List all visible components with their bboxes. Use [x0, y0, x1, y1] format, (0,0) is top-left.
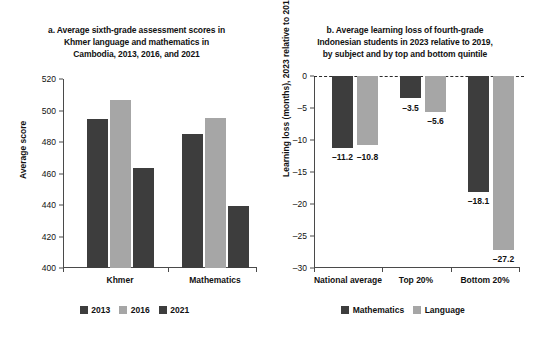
panel-b-ytick-0: 0	[268, 71, 314, 81]
panel-b-ytick-neg5: –5	[268, 103, 314, 113]
legend-item-2021[interactable]: 2021	[159, 305, 189, 315]
panel-b-x-axis-line	[314, 267, 520, 268]
bar-bottom20-mathematics[interactable]	[468, 76, 489, 192]
panel-a-xlabel-mathematics: Mathematics	[189, 275, 241, 285]
panel-a-title-line-1: a. Average sixth-grade assessment scores…	[12, 24, 261, 36]
bar-bottom20-language[interactable]	[493, 76, 514, 250]
panel-a-xtick-mark-mid	[168, 268, 169, 272]
panel-b-xtick-mark-3	[451, 268, 452, 272]
bar-value-bottom20-mathematics: –18.1	[468, 196, 489, 206]
legend-label-2013: 2013	[91, 305, 110, 315]
legend-item-2016[interactable]: 2016	[119, 305, 149, 315]
panel-b-legend: Mathematics Language	[269, 305, 537, 315]
bar-value-national-average-language: –10.8	[357, 152, 378, 162]
bar-khmer-2013[interactable]	[87, 119, 108, 268]
panel-b-y-axis-line	[314, 76, 315, 268]
panel-a-ytick-520: 520	[17, 74, 63, 84]
panel-b-ytick-neg15: –15	[268, 167, 314, 177]
bar-khmer-2021[interactable]	[133, 168, 154, 268]
legend-item-language[interactable]: Language	[413, 305, 465, 315]
panel-a-xlabel-khmer: Khmer	[107, 275, 134, 285]
bar-mathematics-2021[interactable]	[228, 206, 249, 268]
panel-b-title-line-3: by subject and by top and bottom quintil…	[281, 48, 529, 60]
bar-mathematics-2013[interactable]	[182, 134, 203, 268]
figure-container: a. Average sixth-grade assessment scores…	[0, 0, 537, 337]
bar-top20-language[interactable]	[425, 76, 446, 112]
panel-a-ytick-400: 400	[17, 263, 63, 273]
legend-label-language: Language	[425, 305, 465, 315]
panel-a-ytick-500: 500	[17, 106, 63, 116]
panel-b-indonesia-learning-loss: b. Average learning loss of fourth-grade…	[269, 0, 537, 337]
bar-value-top20-mathematics: –3.5	[402, 103, 419, 113]
panel-b-y-axis-title: Learning loss (months), 2023 relative to…	[281, 0, 291, 177]
panel-b-plot-area: 0 –5 –10 –15 –20 –25 –30 –11.2 –10.8 –3.…	[314, 76, 520, 268]
bar-khmer-2016[interactable]	[110, 100, 131, 268]
panel-a-plot-area: 400 420 440 460 480 500 520	[63, 79, 257, 268]
bar-top20-mathematics[interactable]	[400, 76, 421, 98]
panel-b-xtick-mark-2	[382, 268, 383, 272]
legend-swatch-mathematics-icon	[341, 306, 349, 314]
panel-a-ytick-460: 460	[17, 169, 63, 179]
panel-b-xlabel-bottom20: Bottom 20%	[460, 275, 509, 285]
panel-b-xtick-mark-1	[314, 268, 315, 272]
panel-b-ytick-neg25: –25	[268, 231, 314, 241]
panel-a-ytick-420: 420	[17, 232, 63, 242]
legend-label-2016: 2016	[131, 305, 150, 315]
bar-mathematics-2016[interactable]	[205, 118, 226, 268]
legend-swatch-language-icon	[413, 306, 421, 314]
panel-b-ytick-neg10: –10	[268, 135, 314, 145]
panel-a-title-line-3: Cambodia, 2013, 2016, and 2021	[12, 48, 261, 60]
bar-value-national-average-mathematics: –11.2	[332, 152, 353, 162]
panel-b-xlabel-national-average: National average	[314, 275, 382, 285]
panel-a-y-axis-line	[63, 79, 64, 268]
panel-a-legend: 2013 2016 2021	[0, 305, 269, 315]
panel-a-ytick-480: 480	[17, 137, 63, 147]
legend-swatch-2021-icon	[159, 306, 167, 314]
panel-a-title-line-2: Khmer language and mathematics in	[12, 36, 261, 48]
panel-b-title: b. Average learning loss of fourth-grade…	[281, 24, 529, 61]
panel-b-xtick-mark-4	[519, 268, 520, 272]
panel-a-title: a. Average sixth-grade assessment scores…	[12, 24, 261, 61]
legend-item-mathematics[interactable]: Mathematics	[341, 305, 404, 315]
panel-a-xtick-mark-left	[63, 268, 64, 272]
bar-value-bottom20-language: –27.2	[493, 254, 514, 264]
panel-b-title-line-2: Indonesian students in 2023 relative to …	[281, 36, 529, 48]
legend-label-mathematics: Mathematics	[353, 305, 405, 315]
panel-b-xlabel-top20: Top 20%	[399, 275, 433, 285]
legend-item-2013[interactable]: 2013	[80, 305, 110, 315]
legend-label-2021: 2021	[170, 305, 189, 315]
panel-b-ytick-neg20: –20	[268, 199, 314, 209]
legend-swatch-2016-icon	[119, 306, 127, 314]
panel-b-title-line-1: b. Average learning loss of fourth-grade	[281, 24, 529, 36]
bar-national-average-language[interactable]	[357, 76, 378, 145]
panel-a-cambodia-scores: a. Average sixth-grade assessment scores…	[0, 0, 269, 337]
legend-swatch-2013-icon	[80, 306, 88, 314]
panel-b-ytick-neg30: –30	[268, 263, 314, 273]
bar-national-average-mathematics[interactable]	[332, 76, 353, 148]
panel-a-xtick-mark-right	[256, 268, 257, 272]
bar-value-top20-language: –5.6	[427, 116, 444, 126]
panel-a-ytick-440: 440	[17, 200, 63, 210]
